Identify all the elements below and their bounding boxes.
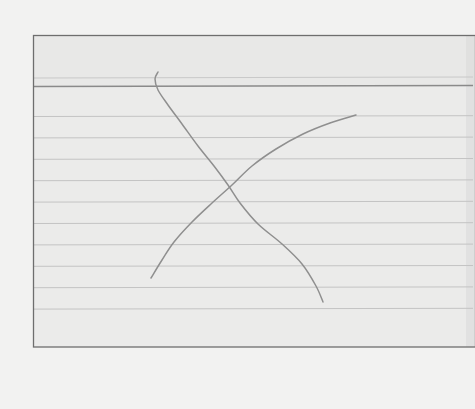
index-card-photo <box>0 0 475 409</box>
header-rule <box>34 86 473 87</box>
index-card <box>33 35 475 347</box>
card-right-shadow <box>466 35 475 347</box>
